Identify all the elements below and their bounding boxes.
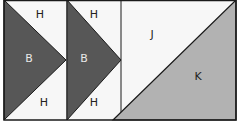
label-h-top-1: H bbox=[36, 8, 44, 21]
label-b-1: B bbox=[25, 52, 33, 65]
label-k: K bbox=[194, 70, 202, 83]
label-h-top-2: H bbox=[90, 8, 98, 21]
quilt-block-diagram: H B H H B H J K bbox=[0, 0, 239, 124]
label-h-bottom-1: H bbox=[40, 96, 48, 109]
label-j: J bbox=[149, 28, 153, 41]
label-h-bottom-2: H bbox=[90, 96, 98, 109]
label-b-2: B bbox=[80, 52, 88, 65]
